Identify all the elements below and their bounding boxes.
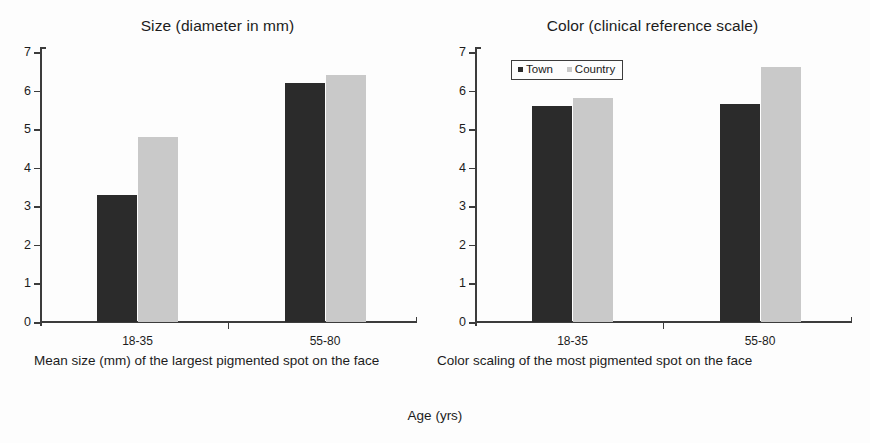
y-axis-tick-label: 6 <box>13 84 31 97</box>
bar-country-55-80 <box>761 67 801 322</box>
bar-town-18-35 <box>532 106 572 322</box>
y-axis-tick-label: 4 <box>448 161 466 174</box>
y-axis-tick-label: 3 <box>448 200 466 213</box>
y-axis-tick <box>469 168 475 170</box>
chart-caption-color: Color scaling of the most pigmented spot… <box>437 352 829 370</box>
figure-root: Size (diameter in mm) 0123456718-3555-80… <box>0 0 870 443</box>
y-axis-tick <box>34 52 40 54</box>
chart-legend: Town Country <box>511 60 623 80</box>
y-axis-tick <box>469 52 475 54</box>
y-axis-tick <box>469 283 475 285</box>
x-axis-tick-label: 55-80 <box>310 334 341 348</box>
plot-area-color: Town Country 0123456718-3555-80 <box>475 52 850 322</box>
y-axis-tick-label: 7 <box>13 46 31 59</box>
y-axis-tick-label: 5 <box>13 123 31 136</box>
x-axis-tick-label: 55-80 <box>745 334 776 348</box>
x-axis-caption: Age (yrs) <box>0 408 870 423</box>
y-axis-tick <box>469 129 475 131</box>
y-axis-tick <box>34 206 40 208</box>
y-axis-tick-label: 3 <box>13 200 31 213</box>
y-axis-tick-label: 2 <box>448 239 466 252</box>
legend-label-country: Country <box>575 64 615 76</box>
y-axis-tick-label: 0 <box>448 316 466 329</box>
chart-title-size: Size (diameter in mm) <box>0 17 435 35</box>
y-axis-tick-label: 0 <box>13 316 31 329</box>
y-axis-tick <box>34 283 40 285</box>
x-axis-tick <box>228 322 230 329</box>
square-marker-icon <box>518 67 523 72</box>
y-axis-cap <box>40 47 46 49</box>
y-axis-tick-label: 5 <box>448 123 466 136</box>
x-axis-tick <box>663 322 665 329</box>
chart-panel-color: Color (clinical reference scale) Town Co… <box>435 0 870 400</box>
y-axis-tick <box>469 245 475 247</box>
y-axis-tick-label: 7 <box>448 46 466 59</box>
y-axis-tick <box>469 206 475 208</box>
y-axis-tick <box>34 322 40 324</box>
bar-country-18-35 <box>573 98 613 322</box>
y-axis-tick <box>469 91 475 93</box>
x-axis-tick-label: 18-35 <box>557 334 588 348</box>
y-axis-tick <box>34 245 40 247</box>
y-axis-tick-label: 2 <box>13 239 31 252</box>
y-axis-tick <box>34 168 40 170</box>
chart-caption-size: Mean size (mm) of the largest pigmented … <box>34 352 426 370</box>
legend-entry-town: Town <box>518 64 553 76</box>
plot-area-size: 0123456718-3555-80 <box>40 52 415 322</box>
y-axis-line <box>475 48 477 326</box>
y-axis-tick <box>34 91 40 93</box>
bar-country-18-35 <box>138 137 178 322</box>
legend-label-town: Town <box>526 64 553 76</box>
y-axis-tick-label: 1 <box>13 277 31 290</box>
chart-title-color: Color (clinical reference scale) <box>435 17 870 35</box>
bar-town-55-80 <box>720 104 760 322</box>
legend-entry-country: Country <box>567 64 615 76</box>
square-marker-icon <box>567 67 572 72</box>
y-axis-cap <box>475 47 481 49</box>
bar-town-18-35 <box>97 195 137 322</box>
chart-panel-size: Size (diameter in mm) 0123456718-3555-80 <box>0 0 435 400</box>
y-axis-tick-label: 4 <box>13 161 31 174</box>
bar-country-55-80 <box>326 75 366 322</box>
y-axis-tick-label: 6 <box>448 84 466 97</box>
y-axis-tick-label: 1 <box>448 277 466 290</box>
x-axis-tick-label: 18-35 <box>122 334 153 348</box>
y-axis-line <box>40 48 42 326</box>
bar-town-55-80 <box>285 83 325 322</box>
y-axis-tick <box>34 129 40 131</box>
y-axis-tick <box>469 322 475 324</box>
